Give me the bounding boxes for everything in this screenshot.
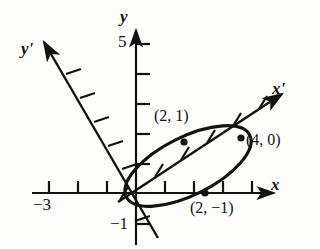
y-prime-axis-line bbox=[44, 42, 158, 238]
y-prime-tick-4 bbox=[80, 93, 95, 98]
y-prime-axis-group bbox=[44, 42, 158, 238]
point-label-4-0: (4, 0) bbox=[246, 132, 281, 148]
x-axis-label: x bbox=[271, 176, 280, 193]
y-tick-label-neg-1: −1 bbox=[110, 215, 128, 232]
x-prime-axis-label: x' bbox=[272, 80, 285, 97]
y-prime-axis-label: y' bbox=[21, 40, 33, 57]
y-prime-tick-5 bbox=[66, 69, 81, 74]
point-dot-4-0 bbox=[237, 134, 244, 141]
y-prime-tick-2 bbox=[108, 141, 123, 146]
point-dot-2-1 bbox=[180, 138, 187, 145]
rotated-conic-figure: y x x' y' 5 −1 −3 (2, 1) (4, 0) (2, −1) bbox=[0, 0, 320, 249]
point-dot-2-n1 bbox=[201, 189, 208, 196]
y-prime-tick-3 bbox=[94, 117, 109, 122]
x-tick-label-neg-3: −3 bbox=[33, 196, 51, 213]
x-prime-axis-line bbox=[118, 94, 282, 202]
x-axis-group bbox=[32, 181, 274, 193]
y-tick-label-5: 5 bbox=[118, 33, 127, 50]
point-label-2-neg-1: (2, −1) bbox=[190, 200, 234, 216]
point-label-2-1: (2, 1) bbox=[154, 108, 189, 124]
y-axis-label: y bbox=[120, 8, 128, 25]
x-prime-axis-group bbox=[118, 94, 282, 202]
